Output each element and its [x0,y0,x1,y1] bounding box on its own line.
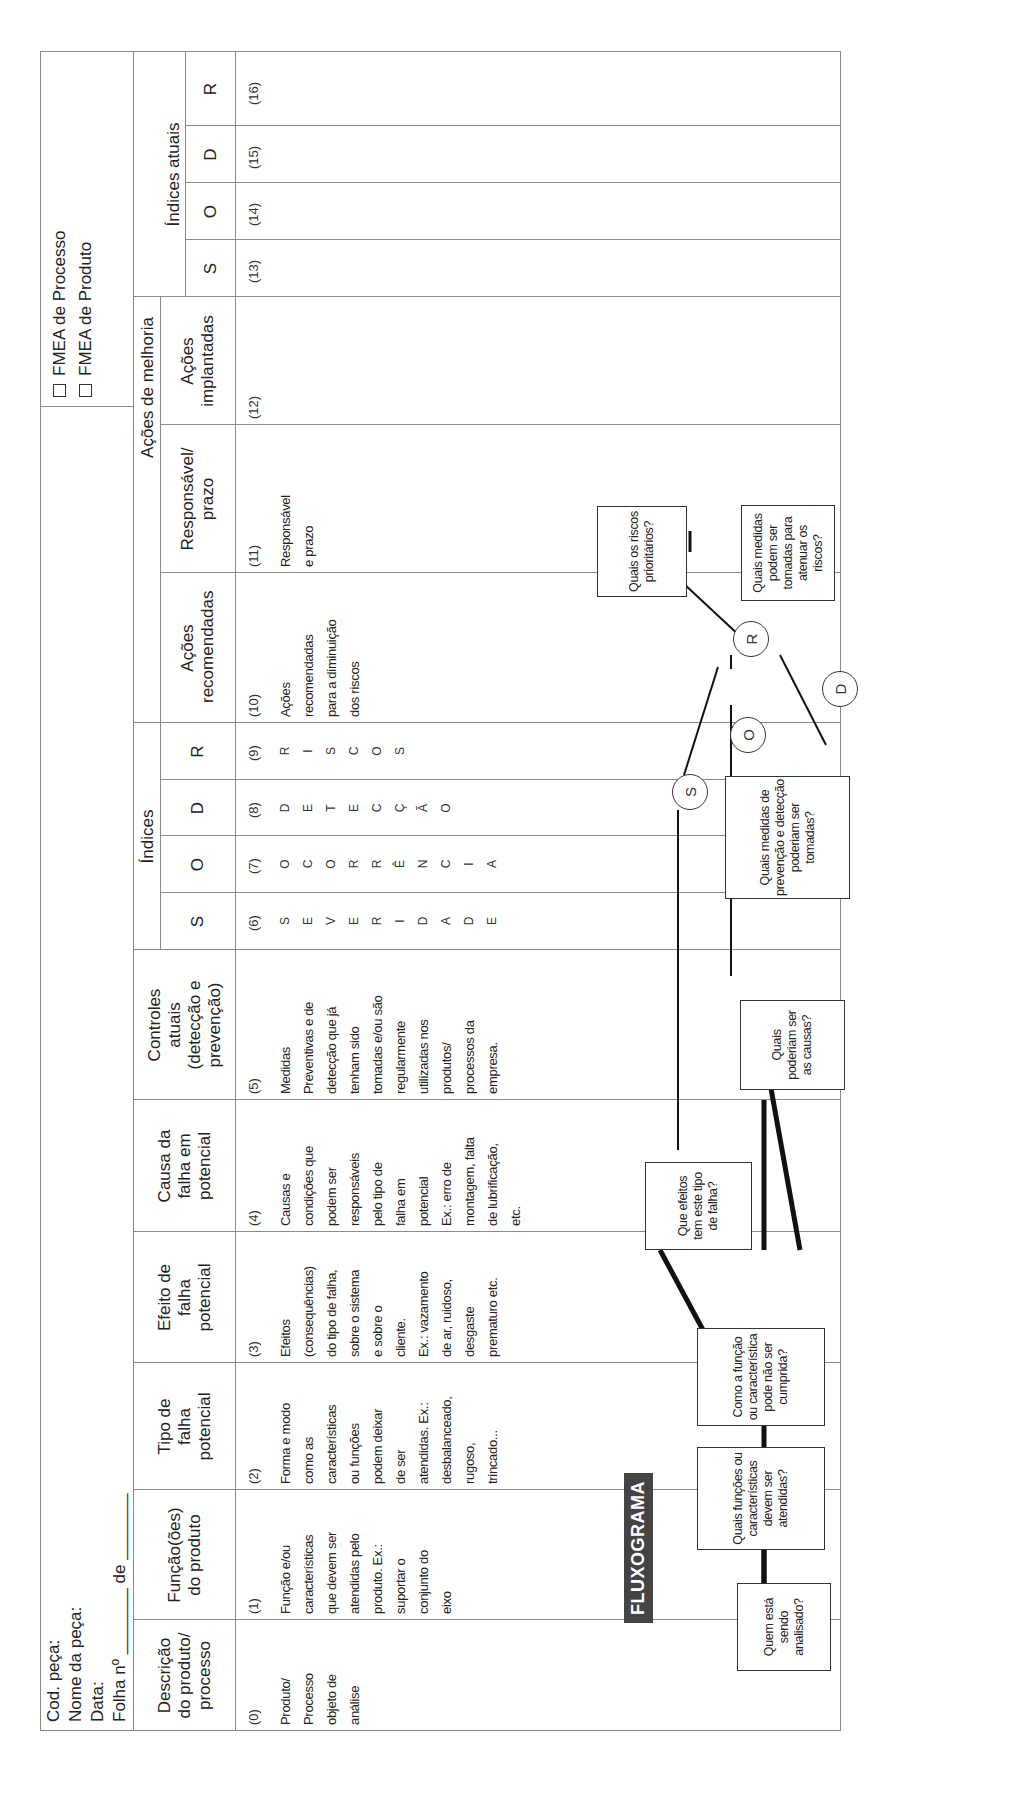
flow-box-causas: Quais poderiam ser as causas? [740,1000,845,1090]
flow-box-como: Como a função ou característica pode não… [697,1328,825,1426]
flow-box-atenuar-riscos: Quais medidas podem ser tomadas para ate… [741,505,835,601]
flow-box-quem: Quem está sendo analisado? [737,1583,831,1671]
flowchart-connectors [0,0,1015,1795]
flow-box-efeitos: Que efeitos tem este tipo de falha? [645,1162,752,1250]
node-s: S [672,774,708,810]
flowchart-title: FLUXOGRAMA [624,1473,653,1623]
flow-box-riscos-prioritarios: Quais os riscos prioritários? [597,506,687,597]
flow-box-funcoes: Quais funções ou características devem s… [697,1447,825,1550]
fmea-form: Cod. peça: Nome da peça: Data: Folha nº … [0,0,1015,1795]
node-o: O [730,717,766,753]
flow-box-medidas-prevencao: Quais medidas de prevenção e detecção po… [725,776,850,899]
node-d: D [822,671,858,707]
node-r: R [733,621,769,657]
